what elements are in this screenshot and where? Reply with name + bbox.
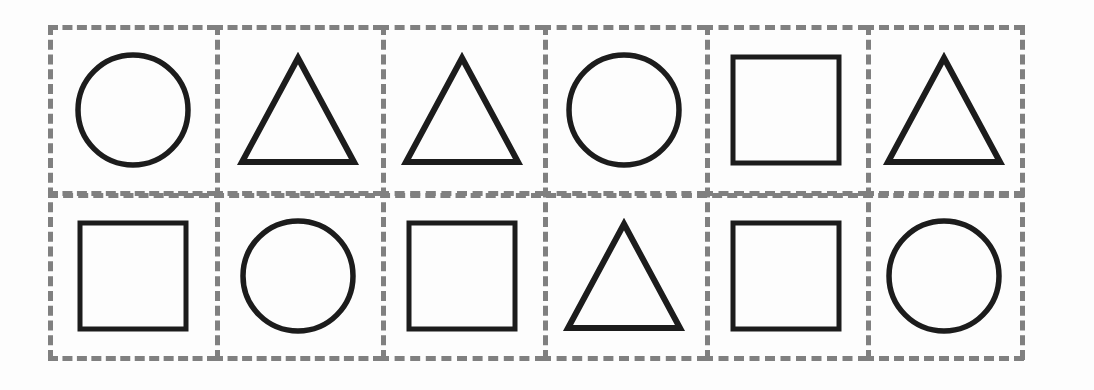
grid-cell-r1c2[interactable] bbox=[215, 27, 381, 193]
grid-cell-r2c6[interactable] bbox=[866, 193, 1022, 358]
shape-grid bbox=[50, 27, 1022, 358]
grid-cell-r2c1[interactable] bbox=[50, 193, 215, 358]
grid-cell-r1c4[interactable] bbox=[543, 27, 705, 193]
grid-cell-r1c3[interactable] bbox=[381, 27, 543, 193]
triangle-icon bbox=[882, 52, 1006, 168]
grid-cell-r2c5[interactable] bbox=[705, 193, 866, 358]
circle-icon bbox=[885, 217, 1003, 335]
square-icon bbox=[728, 218, 844, 334]
square-icon bbox=[728, 52, 844, 168]
square-icon bbox=[75, 218, 191, 334]
grid-cell-r1c1[interactable] bbox=[50, 27, 215, 193]
triangle-icon bbox=[400, 52, 524, 168]
grid-cell-r2c3[interactable] bbox=[381, 193, 543, 358]
worksheet-canvas bbox=[0, 0, 1094, 390]
grid-cell-r2c2[interactable] bbox=[215, 193, 381, 358]
circle-icon bbox=[239, 217, 357, 335]
triangle-icon bbox=[236, 52, 360, 168]
circle-icon bbox=[565, 51, 683, 169]
grid-cell-r2c4[interactable] bbox=[543, 193, 705, 358]
grid-cell-r1c5[interactable] bbox=[705, 27, 866, 193]
square-icon bbox=[404, 218, 520, 334]
circle-icon bbox=[74, 51, 192, 169]
grid-cell-r1c6[interactable] bbox=[866, 27, 1022, 193]
triangle-icon bbox=[562, 218, 686, 334]
